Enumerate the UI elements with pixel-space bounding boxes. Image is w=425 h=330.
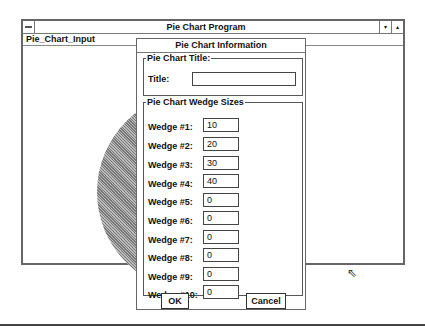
- wedge-4-input[interactable]: 40: [203, 174, 239, 188]
- wedge-1-input[interactable]: 10: [203, 118, 239, 132]
- title-group: Pie Chart Title: Title:: [143, 54, 303, 96]
- pie-chart-information-dialog: Pie Chart Information Pie Chart Title: T…: [136, 38, 306, 310]
- minimize-button[interactable]: ▾: [379, 21, 391, 33]
- wedge-8-input[interactable]: 0: [203, 248, 239, 262]
- mouse-cursor-icon: ⇖: [347, 266, 357, 280]
- ok-button[interactable]: OK: [161, 293, 189, 309]
- wedge-4-label: Wedge #4:: [148, 177, 193, 191]
- wedge-sizes-group: Pie Chart Wedge Sizes Wedge #1: 10 Wedge…: [143, 98, 303, 296]
- wedge-9-input[interactable]: 0: [203, 267, 239, 281]
- wedge-5-input[interactable]: 0: [203, 193, 239, 207]
- wedge-8-label: Wedge #8:: [148, 251, 193, 265]
- bottom-divider: [0, 324, 425, 326]
- title-label: Title:: [148, 72, 169, 86]
- wedge-9-label: Wedge #9:: [148, 270, 193, 284]
- menu-pie-chart-input[interactable]: Pie_Chart_Input: [26, 34, 95, 45]
- wedge-6-input[interactable]: 0: [203, 211, 239, 225]
- wedge-5-label: Wedge #5:: [148, 195, 193, 209]
- cancel-button[interactable]: Cancel: [246, 293, 286, 309]
- wedge-group-legend: Pie Chart Wedge Sizes: [146, 98, 245, 107]
- wedge-6-label: Wedge #6:: [148, 214, 193, 228]
- title-bar: Pie Chart Program ▾ ▴: [23, 21, 403, 34]
- wedge-10-input[interactable]: 0: [203, 285, 239, 299]
- wedge-2-input[interactable]: 20: [203, 137, 239, 151]
- wedge-7-input[interactable]: 0: [203, 230, 239, 244]
- wedge-1-label: Wedge #1:: [148, 120, 193, 134]
- title-input[interactable]: [192, 72, 296, 86]
- wedge-3-label: Wedge #3:: [148, 158, 193, 172]
- wedge-7-label: Wedge #7:: [148, 233, 193, 247]
- system-menu-button[interactable]: [23, 21, 35, 33]
- maximize-button[interactable]: ▴: [391, 21, 403, 33]
- system-menu-icon: [25, 26, 32, 28]
- wedge-3-input[interactable]: 30: [203, 156, 239, 170]
- dialog-title: Pie Chart Information: [137, 39, 305, 53]
- window-title: Pie Chart Program: [37, 21, 375, 33]
- wedge-2-label: Wedge #2:: [148, 139, 193, 153]
- title-group-legend: Pie Chart Title:: [146, 54, 211, 63]
